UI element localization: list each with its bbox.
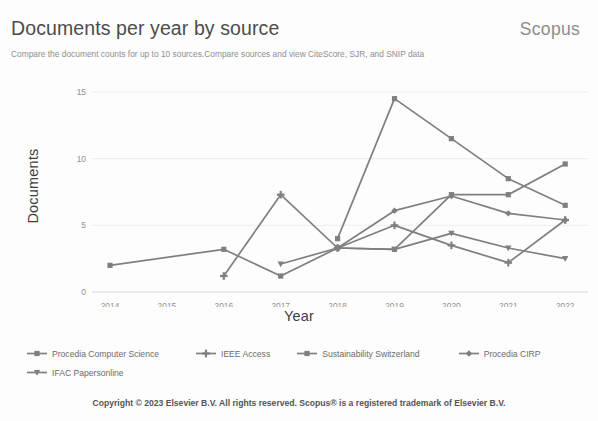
legend-item-2[interactable]: Sustainability Switzerland <box>296 348 419 359</box>
x-tick-label: 2017 <box>271 301 290 307</box>
data-point-diamond <box>505 210 511 216</box>
data-point-square <box>506 176 511 181</box>
legend-label: IFAC Papersonline <box>52 368 124 378</box>
y-tick-label: 5 <box>81 220 86 230</box>
legend-marker-square-icon <box>296 348 318 359</box>
x-tick-label: 2022 <box>556 301 575 307</box>
scopus-brand-logo: Scopus <box>520 19 580 40</box>
data-point-square <box>563 161 568 166</box>
data-point-diamond <box>465 350 471 356</box>
x-tick-label: 2016 <box>214 301 233 307</box>
data-point-square <box>305 351 310 356</box>
data-point-square <box>34 351 39 356</box>
data-point-square <box>506 192 511 197</box>
x-tick-label: 2014 <box>101 301 120 307</box>
x-axis-title: Year <box>0 308 598 324</box>
series-0 <box>107 161 567 278</box>
series-line <box>338 99 566 239</box>
legend-marker-square-icon <box>26 348 48 359</box>
data-point-square <box>335 236 340 241</box>
data-point-square <box>563 203 568 208</box>
legend-label: Sustainability Switzerland <box>322 349 419 359</box>
series-line <box>224 195 565 276</box>
x-tick-label: 2019 <box>385 301 404 307</box>
y-tick-label: 15 <box>77 87 87 97</box>
line-chart-svg: 0510152014201520162017201820192020202120… <box>0 62 598 307</box>
x-tick-label: 2015 <box>158 301 177 307</box>
legend-row-secondary: IFAC Papersonline <box>26 363 586 382</box>
data-point-plus <box>448 242 456 250</box>
legend-item-3[interactable]: Procedia CIRP <box>458 348 541 359</box>
legend-marker-diamond-icon <box>458 348 480 359</box>
data-point-square <box>107 263 112 268</box>
series-1 <box>220 191 569 280</box>
data-point-plus <box>202 350 210 358</box>
footer-copyright: Copyright © 2023 Elsevier B.V. All right… <box>0 398 598 408</box>
page-title: Documents per year by source <box>11 17 279 40</box>
x-tick-label: 2020 <box>442 301 461 307</box>
legend-item-4[interactable]: IFAC Papersonline <box>26 367 124 378</box>
data-point-square <box>278 273 283 278</box>
series-line <box>281 233 566 264</box>
series-line <box>338 196 566 248</box>
chart-legend: Procedia Computer ScienceIEEE AccessSust… <box>26 344 586 382</box>
scopus-chart-page: Documents per year by source Scopus Comp… <box>0 0 598 421</box>
legend-label: Procedia Computer Science <box>52 349 159 359</box>
x-tick-label: 2021 <box>499 301 518 307</box>
y-tick-label: 10 <box>77 154 87 164</box>
x-tick-label: 2018 <box>328 301 347 307</box>
legend-marker-plus-icon <box>195 348 217 359</box>
data-point-square <box>221 247 226 252</box>
data-point-square <box>449 136 454 141</box>
page-subtitle: Compare the document counts for up to 10… <box>11 49 424 59</box>
series-2 <box>335 96 568 241</box>
data-point-square <box>392 96 397 101</box>
page-header: Documents per year by source Scopus Comp… <box>0 0 598 62</box>
legend-row-primary: Procedia Computer ScienceIEEE AccessSust… <box>26 344 586 363</box>
y-tick-label: 0 <box>81 287 86 297</box>
legend-label: Procedia CIRP <box>484 349 541 359</box>
chart-plot-area: Documents Year 0510152014201520162017201… <box>0 62 598 324</box>
data-point-plus <box>391 222 399 230</box>
legend-label: IEEE Access <box>221 349 270 359</box>
legend-marker-triangle-icon <box>26 367 48 378</box>
legend-item-0[interactable]: Procedia Computer Science <box>26 348 159 359</box>
data-point-triangle <box>278 261 284 267</box>
legend-item-1[interactable]: IEEE Access <box>195 348 270 359</box>
